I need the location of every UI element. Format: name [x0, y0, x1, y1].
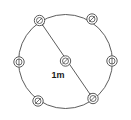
- node-top-left: [34, 15, 44, 25]
- dimension-label: 1m: [51, 70, 64, 80]
- node-bottom-left: [33, 96, 43, 106]
- node-bottom-right: [88, 93, 98, 103]
- diagram-canvas: 1m: [0, 0, 131, 120]
- node-center: [60, 56, 70, 66]
- circle-diagram-svg: 1m: [0, 0, 131, 120]
- node-right: [107, 56, 117, 66]
- node-top-right: [87, 14, 97, 24]
- node-left: [14, 57, 24, 67]
